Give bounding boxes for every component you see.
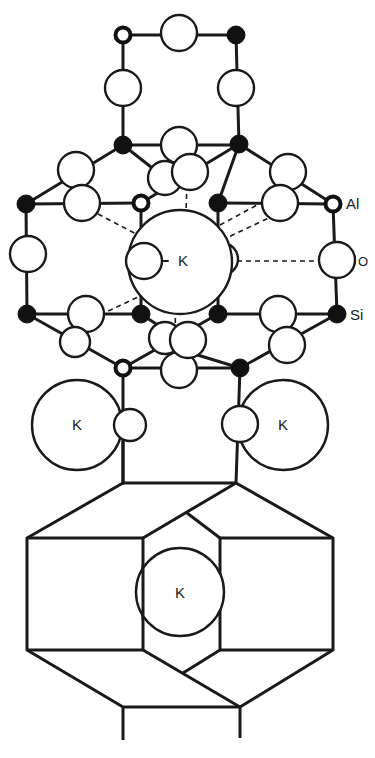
k-label-left: K [72, 416, 82, 433]
k-label-cage: K [175, 584, 185, 601]
si-label: Si [350, 306, 363, 323]
aluminosilicate-framework-diagram: K K K K [0, 0, 375, 758]
oxygen-atom [222, 406, 258, 442]
k-label-right: K [278, 416, 288, 433]
oxygen-atom [126, 243, 162, 279]
k-label-center: K [178, 252, 188, 269]
oxygen-atom [114, 409, 146, 441]
al-label: Al [346, 195, 359, 212]
o-label: O [358, 254, 368, 269]
